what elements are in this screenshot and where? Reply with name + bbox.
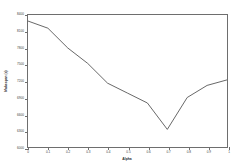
x-axis-tick-label: 0 — [27, 151, 29, 154]
y-axis-tick — [25, 65, 28, 66]
x-axis-title: Alpha — [122, 158, 131, 161]
plot-area: 84008100780075007200690066006300600000.1… — [27, 14, 228, 148]
x-axis-tick-label: 0.4 — [106, 151, 110, 154]
x-axis-tick-label: 0.1 — [46, 151, 50, 154]
y-axis-title: Makespan (s) — [5, 70, 8, 91]
y-axis-tick — [25, 99, 28, 100]
y-axis-tick — [25, 132, 28, 133]
y-axis-tick — [25, 82, 28, 83]
x-axis-tick-label: 0.7 — [167, 151, 171, 154]
x-axis-tick-label: 0.2 — [66, 151, 70, 154]
x-axis-tick-label: 0.5 — [126, 151, 130, 154]
y-axis-tick — [25, 15, 28, 16]
y-axis-tick-label: 8100 — [17, 30, 24, 33]
y-axis-tick-label: 6600 — [17, 114, 24, 117]
x-axis-tick-label: 0.9 — [207, 151, 211, 154]
y-axis-tick-label: 6000 — [17, 147, 24, 150]
y-axis-tick-label: 7500 — [17, 64, 24, 67]
y-axis-tick-label: 6300 — [17, 131, 24, 134]
x-axis-tick-label: 0.8 — [187, 151, 191, 154]
y-axis-tick-label: 8400 — [17, 13, 24, 16]
chart-figure: 84008100780075007200690066006300600000.1… — [0, 0, 241, 167]
y-axis-tick-label: 7800 — [17, 47, 24, 50]
y-axis-tick — [25, 116, 28, 117]
x-axis-tick-label: 1 — [228, 151, 230, 154]
x-axis-tick-label: 0.6 — [146, 151, 150, 154]
y-axis-tick — [25, 32, 28, 33]
data-series-line — [28, 15, 227, 147]
y-axis-tick — [25, 49, 28, 50]
x-axis-tick-label: 0.3 — [86, 151, 90, 154]
y-axis-tick-label: 6900 — [17, 97, 24, 100]
y-axis-tick-label: 7200 — [17, 80, 24, 83]
